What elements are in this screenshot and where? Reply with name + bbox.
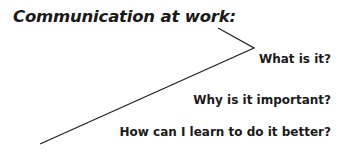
question-how: How can I learn to do it better? <box>119 125 331 139</box>
question-what: What is it? <box>259 52 331 66</box>
question-why: Why is it important? <box>193 93 331 107</box>
